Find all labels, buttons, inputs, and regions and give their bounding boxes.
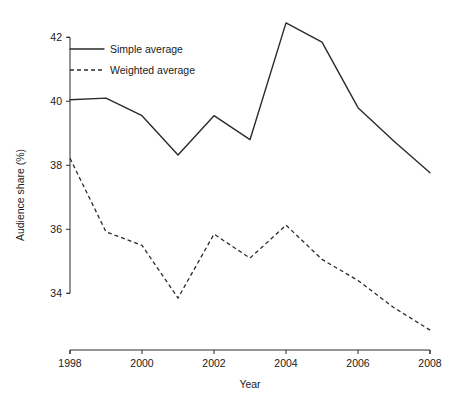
legend-label-weighted-average: Weighted average <box>110 64 195 76</box>
x-tick-label: 2000 <box>130 357 154 369</box>
x-tick-label: 2006 <box>346 357 370 369</box>
x-axis-ticks <box>70 350 430 354</box>
y-axis-title: Audience share (%) <box>14 149 26 241</box>
y-tick-label: 36 <box>50 223 62 235</box>
x-tick-label: 1998 <box>58 357 82 369</box>
chart-legend: Simple average Weighted average <box>70 43 195 76</box>
x-tick-label: 2004 <box>274 357 298 369</box>
y-tick-label: 34 <box>50 287 62 299</box>
y-tick-label: 40 <box>50 95 62 107</box>
chart-figure: 3436384042 199820002002200420062008 Audi… <box>0 0 464 404</box>
x-tick-label: 2008 <box>418 357 442 369</box>
y-axis-ticks <box>66 37 70 293</box>
x-tick-label: 2002 <box>202 357 226 369</box>
series-line-weighted-average <box>70 158 430 330</box>
x-axis-title: Year <box>239 378 261 390</box>
x-axis-line <box>70 350 430 354</box>
legend-label-simple-average: Simple average <box>110 43 183 55</box>
line-chart: 3436384042 199820002002200420062008 Audi… <box>0 0 464 404</box>
y-tick-label: 38 <box>50 159 62 171</box>
x-axis-tick-labels: 199820002002200420062008 <box>58 357 442 369</box>
y-axis-tick-labels: 3436384042 <box>50 31 62 299</box>
y-tick-label: 42 <box>50 31 62 43</box>
